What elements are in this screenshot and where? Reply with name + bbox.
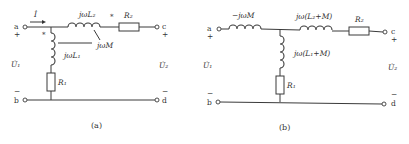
sign-c-plus: + — [162, 30, 168, 39]
label-L2: jωL₂ — [77, 10, 95, 19]
caption-a: (a) — [91, 121, 102, 130]
terminal-d — [382, 102, 386, 106]
sign-d-minus: − — [391, 90, 397, 99]
sign-b-minus: − — [14, 87, 20, 96]
label-L1: jωL₁ — [62, 51, 80, 60]
label-L1-plus-M: jω(L₁+M) — [292, 49, 330, 58]
resistor-R1 — [276, 76, 284, 94]
inductor-L1 — [51, 33, 55, 65]
terminal-a — [23, 25, 27, 29]
diagram-a: a + U̇₁ − b İ * * jωL₂ jωM jωL₁ R₁ R₂ c … — [11, 10, 168, 130]
label-M: jωM — [95, 41, 113, 50]
terminal-c — [383, 30, 387, 34]
terminal-d — [155, 98, 159, 102]
circuit-diagrams: a + U̇₁ − b İ * * jωL₂ jωM jωL₁ R₁ R₂ c … — [0, 0, 409, 144]
diagram-b: a + U̇₁ − b −jωM jω(L₂+M) jω(L₁+M) R₁ R₂… — [203, 11, 397, 132]
label-b: b — [207, 98, 212, 107]
sign-c-plus: + — [391, 35, 397, 44]
voltage-U1: U̇₁ — [11, 60, 20, 69]
voltage-U2: U̇₂ — [388, 63, 397, 72]
inductor-L1-plus-M — [280, 36, 284, 68]
current-arrow-icon — [42, 20, 46, 24]
sign-d-minus: − — [162, 87, 168, 96]
terminal-b — [216, 100, 220, 104]
terminal-b — [23, 98, 27, 102]
terminal-a — [217, 27, 221, 31]
current-I: İ — [33, 10, 38, 19]
label-minus-jwM: −jωM — [232, 11, 255, 20]
dot-marker-L1: * — [42, 31, 46, 39]
label-R1: R₁ — [286, 81, 296, 90]
label-b: b — [14, 96, 19, 105]
sign-a-plus: + — [207, 32, 213, 41]
voltage-U1: U̇₁ — [203, 61, 212, 70]
resistor-R2 — [119, 23, 139, 31]
sign-b-minus: − — [207, 89, 213, 98]
voltage-U2: U̇₂ — [159, 61, 168, 70]
resistor-R1 — [47, 73, 55, 91]
caption-b: (b) — [279, 123, 290, 132]
dot-marker-L2: * — [110, 13, 114, 21]
sign-a-plus: + — [14, 30, 20, 39]
label-d: d — [162, 96, 167, 105]
terminal-c — [155, 25, 159, 29]
resistor-R2 — [349, 27, 369, 35]
label-R2: R₂ — [123, 11, 133, 20]
label-R1: R₁ — [57, 78, 67, 87]
label-d: d — [391, 99, 396, 108]
label-L2-plus-M: jω(L₂+M) — [294, 12, 332, 21]
inductor-L2-plus-M — [300, 26, 332, 30]
label-R2: R₂ — [354, 15, 364, 24]
inductor-minus-jwM — [229, 25, 261, 29]
inductor-L2 — [68, 23, 100, 27]
